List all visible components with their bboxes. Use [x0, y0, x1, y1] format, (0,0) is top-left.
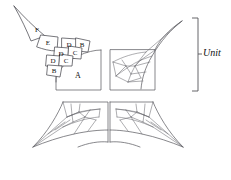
figure-canvas: A — [0, 0, 231, 180]
piece-label-d1: D — [66, 41, 71, 49]
quadrant-bottom-right — [110, 102, 183, 147]
piece-label-c2: C — [64, 57, 69, 65]
piece-label-b1: B — [80, 41, 85, 49]
piece-label-f: F — [35, 26, 39, 34]
piece-shape-f — [14, 6, 45, 41]
piece-label-b2: B — [52, 67, 57, 75]
piece-label-e: E — [46, 39, 50, 47]
piece-label-c1: C — [73, 49, 78, 57]
unit-label: Unit — [203, 47, 221, 58]
quadrant-top-right — [110, 21, 182, 90]
quadrant-label-a: A — [75, 71, 81, 80]
unit-bracket-annotation: Unit — [192, 18, 221, 91]
piece-label-d3: D — [50, 57, 55, 65]
exploded-pieces-group: F E D B D C D C B — [14, 6, 90, 77]
unit-bracket-icon — [192, 18, 198, 91]
dissection-diagram: A — [0, 0, 231, 180]
quadrant-bottom-left — [33, 102, 108, 147]
